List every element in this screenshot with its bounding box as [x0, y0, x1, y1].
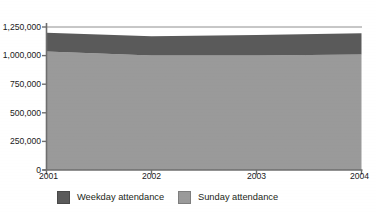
legend-swatch — [57, 191, 70, 204]
x-tick-label: 2003 — [247, 171, 266, 181]
plot-svg — [0, 0, 376, 180]
legend-label: Weekday attendance — [77, 191, 164, 204]
y-axis-tick-labels: 0250,000500,000750,0001,000,0001,250,000 — [0, 0, 41, 180]
legend-swatch — [178, 191, 191, 204]
x-tick-label: 2001 — [39, 171, 58, 181]
x-tick-label: 2004 — [350, 171, 369, 181]
y-tick-label: 750,000 — [0, 80, 41, 89]
legend-label: Sunday attendance — [198, 191, 278, 204]
y-tick-label: 500,000 — [0, 109, 41, 118]
legend-item[interactable]: Weekday attendance — [57, 190, 164, 204]
area-band-weekday-attendance — [47, 33, 362, 56]
y-tick-label: 1,000,000 — [0, 51, 41, 60]
x-tick-label: 2002 — [142, 171, 161, 181]
y-tick-label: 1,250,000 — [0, 23, 41, 32]
y-tick-label: 250,000 — [0, 137, 41, 146]
area-band-sunday-attendance — [47, 52, 362, 170]
legend-item[interactable]: Sunday attendance — [178, 190, 278, 204]
chart-legend: Weekday attendanceSunday attendance — [0, 190, 376, 208]
plot-area: 0250,000500,000750,0001,000,0001,250,000 — [0, 0, 376, 180]
x-axis-tick-labels: 2001200220032004 — [0, 171, 376, 185]
attendance-area-chart: attendance 0250,000500,000750,0001,000,0… — [0, 0, 376, 212]
